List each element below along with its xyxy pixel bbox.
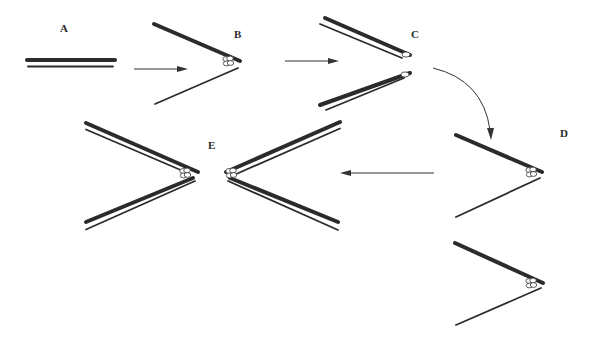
strand-thin [456,178,540,217]
end-complex-icon [402,52,410,57]
stage-d: D [456,127,568,217]
bead-complex-icon [526,167,537,177]
strand-thin [86,130,190,175]
bead-complex-icon [526,278,537,288]
strand-thick [86,178,193,222]
strand-thin [228,181,338,230]
stage-e: E [86,122,340,230]
strand-thick [456,135,542,172]
strand-thin [326,78,404,110]
arrow-b-to-c [285,58,339,64]
stage-c-label: C [411,28,419,40]
strand-thin [234,129,340,176]
arrow-a-to-b [134,66,188,72]
arrow-d-to-e [340,170,434,176]
bead-complex-icon [223,56,234,66]
bead-complex-icon [180,168,191,178]
strand-thin [456,288,541,325]
strand-thick [86,123,198,172]
stage-e-label: E [208,139,215,151]
stage-a-label: A [60,22,68,34]
strand-thick [325,18,410,55]
stage-d-label: D [560,127,568,139]
stage-c: C [320,18,419,110]
arrow-c-to-d [433,68,494,140]
strand-thick [455,243,543,283]
strand-thick [154,24,240,61]
strand-thick [226,122,340,172]
strand-thick [320,73,410,105]
diagram-canvas: A B C D [0,0,590,349]
end-complex-icon [401,72,409,77]
strand-thin [155,68,238,104]
bead-complex-icon [226,168,237,178]
stage-b-label: B [234,28,242,40]
strand-thin [320,24,402,58]
stage-b: B [154,24,242,104]
stage-d-variant [455,243,543,325]
strand-thin [86,181,195,230]
strand-thick [230,178,338,222]
stage-a: A [27,22,115,67]
